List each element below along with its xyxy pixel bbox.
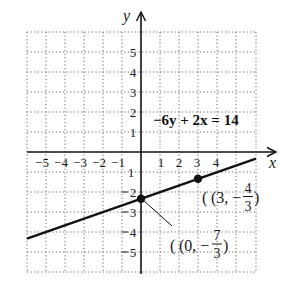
x-tick: 2 (176, 155, 183, 170)
point-leader-line (143, 200, 172, 226)
x-tick: 1 (158, 155, 165, 170)
point-3 (194, 175, 202, 183)
x-tick: −1 (111, 155, 125, 170)
frac-den: 3 (214, 246, 221, 261)
coord-text: (3, − (211, 189, 241, 207)
y-tick: 4 (130, 65, 137, 80)
paren-close: ) (254, 189, 259, 207)
x-tick: 4 (213, 155, 220, 170)
x-axis-label: x (268, 154, 276, 171)
y-tick: 5 (130, 245, 137, 260)
x-tick: 3 (194, 155, 201, 170)
paren-open: ( (170, 237, 175, 255)
y-tick: 4 (130, 225, 137, 240)
axes (27, 12, 276, 274)
coord-text: (0, − (179, 237, 209, 255)
point-y-intercept (137, 195, 145, 203)
y-tick: 2 (130, 185, 137, 200)
frac-num: 4 (245, 181, 252, 196)
frac-den: 3 (245, 199, 252, 214)
paren-close: ) (223, 237, 228, 255)
paren-open: ( (202, 189, 207, 207)
x-tick: −3 (73, 155, 87, 170)
y-tick: 3 (130, 205, 137, 220)
y-tick: 2 (130, 105, 137, 120)
y-tick: 3 (130, 85, 137, 100)
coordinate-plane: x y −5 −4 −3 −2 −1 1 2 3 4 5 4 3 2 1 1 2… (0, 0, 294, 290)
y-axis-label: y (121, 7, 131, 25)
y-tick: 1 (130, 125, 137, 140)
equation-label: −6y + 2x = 14 (153, 112, 239, 128)
x-tick: −4 (54, 155, 68, 170)
y-tick: 5 (130, 45, 137, 60)
y-tick: 1 (128, 165, 135, 180)
frac-num: 7 (214, 228, 221, 243)
point-label-3: ( (3, − 4 3 ) (202, 181, 259, 214)
x-tick: −5 (35, 155, 49, 170)
x-tick: −2 (92, 155, 106, 170)
